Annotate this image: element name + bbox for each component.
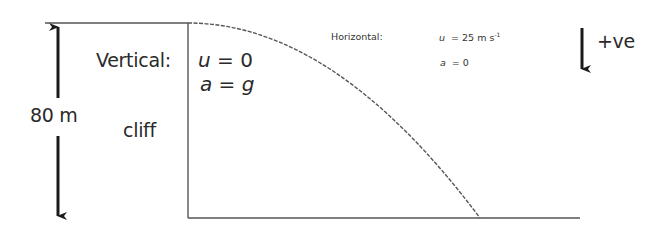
horizontal-u-equation: u = 25 m s-1 [439,31,500,43]
horizontal-a-equation: a = 0 [440,57,469,68]
vertical-u-symbol: u [198,48,211,72]
horizontal-u-unit-exponent: -1 [494,31,500,38]
vertical-u-value: = 0 [211,48,253,72]
vertical-a-equals: = [212,72,241,96]
vertical-a-equation: a = g [200,72,254,96]
positive-direction-label: +ve [597,30,635,52]
vertical-title: Vertical: [96,49,171,71]
horizontal-title: Horizontal: [331,31,383,42]
vertical-u-equation: u = 0 [198,48,253,72]
horizontal-u-value: = 25 m s [445,32,494,43]
horizontal-a-value: = 0 [446,57,469,68]
vertical-a-symbol: a [200,72,212,96]
height-label: 80 m [30,104,78,126]
vertical-a-value: g [242,72,255,96]
cliff-label: cliff [123,119,156,141]
